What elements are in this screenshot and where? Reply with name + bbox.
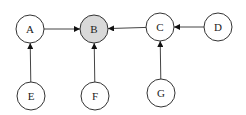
edges [30,27,204,82]
edge-f-to-b [94,43,95,82]
node-e: E [17,82,45,110]
node-label: B [90,23,97,35]
node-g: G [147,79,175,107]
node-label: A [26,23,34,35]
node-f: F [81,82,109,110]
edge-c-to-b [108,27,146,28]
edge-e-to-a [30,43,31,82]
node-label: G [157,87,165,99]
node-label: C [156,21,163,33]
node-b: B [80,15,108,43]
node-label: E [28,90,35,102]
nodes: ABCDEFG [16,13,232,110]
node-label: D [214,21,222,33]
node-d: D [204,13,232,41]
node-a: A [16,15,44,43]
edge-g-to-c [160,41,161,79]
node-c: C [146,13,174,41]
directed-graph: ABCDEFG [0,0,246,115]
node-label: F [92,90,98,102]
